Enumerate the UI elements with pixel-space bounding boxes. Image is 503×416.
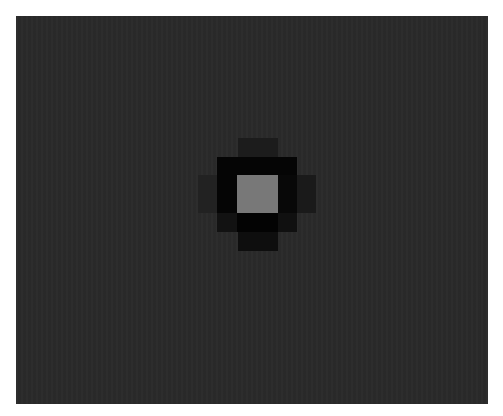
- pixel-lower-right: [278, 213, 297, 232]
- pixel-bottom-dark: [238, 232, 278, 251]
- pixel-right-black: [278, 175, 297, 213]
- pixel-left-black: [217, 175, 237, 213]
- pixel-lower-black: [237, 213, 278, 232]
- pixel-right-tab: [297, 175, 316, 213]
- pixel-left-tab: [198, 175, 217, 213]
- pixel-lower-left: [217, 213, 237, 232]
- pixel-top-dark: [238, 138, 278, 157]
- pixel-upper-black: [217, 157, 297, 175]
- pixel-center-gray: [237, 175, 278, 213]
